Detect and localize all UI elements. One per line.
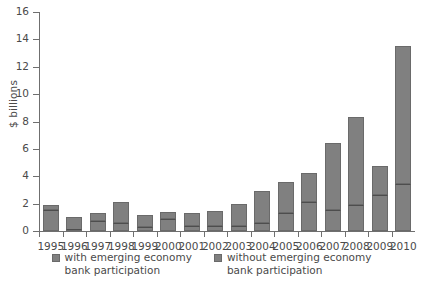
y-tick-label: 2 [22,197,29,209]
bar-segment-without [184,213,200,226]
bar-segment-without [207,211,223,225]
bar-1996[interactable] [66,217,82,231]
bar-segment-without [113,202,129,223]
bar-segment-with [348,205,364,231]
bar-segment-without [278,182,294,213]
x-tick [180,232,181,237]
x-tick [157,232,158,237]
bar-segment-without [137,215,153,227]
y-tick: 2 [33,204,39,205]
x-tick [392,232,393,237]
bar-1999[interactable] [137,215,153,231]
bar-segment-without [254,191,270,222]
x-tick [345,232,346,237]
bar-segment-with [113,223,129,231]
bar-2003[interactable] [231,204,247,231]
bar-segment-with [137,227,153,231]
bar-segment-without [395,46,411,184]
chart-legend: with emerging economy bank participation… [0,251,423,277]
bar-2006[interactable] [301,173,317,231]
bar-2010[interactable] [395,46,411,231]
bar-segment-with [254,223,270,231]
y-axis-line [39,12,40,232]
y-axis-label: $ billions [7,59,19,149]
bar-2005[interactable] [278,182,294,231]
y-tick: 14 [33,39,39,40]
x-tick [227,232,228,237]
y-tick: 4 [33,176,39,177]
x-tick [63,232,64,237]
bar-segment-with [66,229,82,231]
bar-segment-with [325,210,341,231]
legend-item-with: with emerging economy bank participation [52,251,192,277]
y-tick: 8 [33,122,39,123]
x-tick [86,232,87,237]
bar-segment-without [348,117,364,205]
y-tick-label: 16 [16,5,29,17]
y-tick-label: 4 [22,169,29,181]
bar-segment-with [207,226,223,231]
bar-2002[interactable] [207,211,223,231]
bar-2008[interactable] [348,117,364,231]
bar-segment-without [66,217,82,230]
bar-segment-without [372,166,388,195]
y-tick-label: 6 [22,142,29,154]
x-tick [321,232,322,237]
y-tick: 10 [33,94,39,95]
x-tick [110,232,111,237]
x-tick [251,232,252,237]
legend-label-with: with emerging economy bank participation [65,251,192,277]
y-tick-label: 0 [22,224,29,236]
x-tick [368,232,369,237]
bar-1998[interactable] [113,202,129,231]
bar-2009[interactable] [372,166,388,231]
bar-2001[interactable] [184,213,200,231]
bar-segment-with [160,219,176,231]
bar-2000[interactable] [160,212,176,231]
y-tick: 6 [33,149,39,150]
x-tick [39,232,40,237]
y-tick-label: 14 [16,32,29,44]
x-tick [274,232,275,237]
bar-segment-with [231,226,247,231]
legend-swatch-icon [214,254,222,262]
y-tick-label: 10 [16,87,29,99]
bar-segment-with [184,226,200,231]
y-tick-label: 12 [16,60,29,72]
x-tick [204,232,205,237]
legend-item-without: without emerging economy bank participat… [214,251,372,277]
bar-segment-with [301,202,317,231]
bar-segment-with [372,195,388,231]
bar-chart: $ billions 0246810121416 199519961997199… [0,0,423,289]
bar-segment-with [395,184,411,231]
bar-1997[interactable] [90,213,106,231]
y-tick-label: 8 [22,115,29,127]
bar-2004[interactable] [254,191,270,231]
bar-segment-without [301,173,317,202]
legend-swatch-icon [52,254,60,262]
bar-segment-without [325,143,341,211]
plot-area: 0246810121416 19951996199719981999200020… [39,12,415,232]
x-tick [298,232,299,237]
bar-segment-without [231,204,247,225]
y-tick: 16 [33,12,39,13]
bar-segment-with [278,213,294,231]
legend-label-without: without emerging economy bank participat… [227,251,372,277]
bar-2007[interactable] [325,143,341,231]
y-tick: 12 [33,67,39,68]
bar-segment-without [90,213,106,221]
bar-1995[interactable] [43,205,59,231]
bar-segment-with [90,221,106,231]
bar-segment-with [43,210,59,231]
x-tick [133,232,134,237]
bar-segment-without [160,212,176,219]
